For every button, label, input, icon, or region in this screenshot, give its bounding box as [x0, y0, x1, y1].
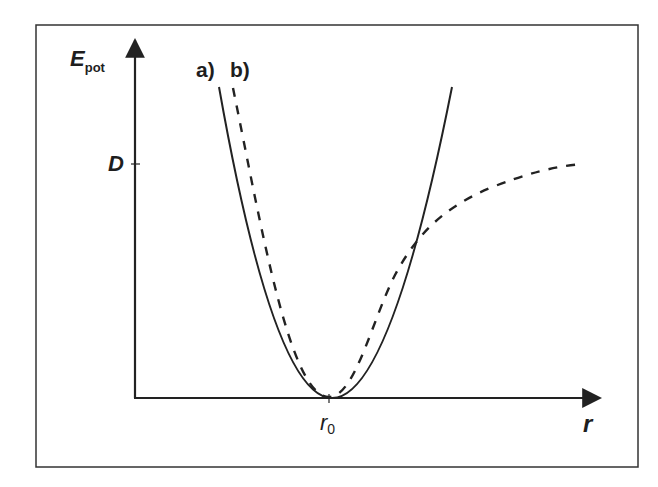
- curve-b-label: b): [230, 58, 250, 82]
- y-axis-label: Epot: [70, 46, 105, 72]
- curve-b-morse: [233, 88, 583, 397]
- y-axis-label-sub: pot: [85, 60, 105, 75]
- r0-label: r0: [320, 410, 335, 436]
- figure-frame: [36, 25, 638, 467]
- curve-a-label: a): [196, 58, 215, 82]
- r0-label-sub: 0: [327, 421, 335, 437]
- y-axis-label-main: E: [70, 46, 85, 71]
- x-axis-label: r: [583, 410, 592, 438]
- dissociation-label: D: [108, 151, 124, 177]
